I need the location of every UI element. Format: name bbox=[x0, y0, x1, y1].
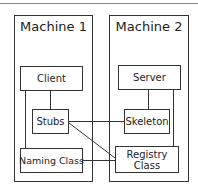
registry-class-label: Registry Class bbox=[127, 149, 168, 171]
stubs-node: Stubs bbox=[32, 109, 69, 134]
client-label: Client bbox=[37, 73, 66, 84]
server-label: Server bbox=[133, 72, 166, 83]
machine-1-title: Machine 1 bbox=[15, 19, 92, 34]
client-node: Client bbox=[20, 66, 83, 91]
naming-class-label: Naming Class bbox=[19, 155, 84, 166]
server-node: Server bbox=[118, 65, 181, 90]
skeleton-node: Skeleton bbox=[124, 109, 170, 134]
machine-2-title: Machine 2 bbox=[110, 19, 188, 34]
stubs-label: Stubs bbox=[36, 116, 64, 127]
registry-class-node: Registry Class bbox=[115, 146, 179, 173]
naming-class-node: Naming Class bbox=[20, 148, 83, 173]
skeleton-label: Skeleton bbox=[125, 116, 168, 127]
